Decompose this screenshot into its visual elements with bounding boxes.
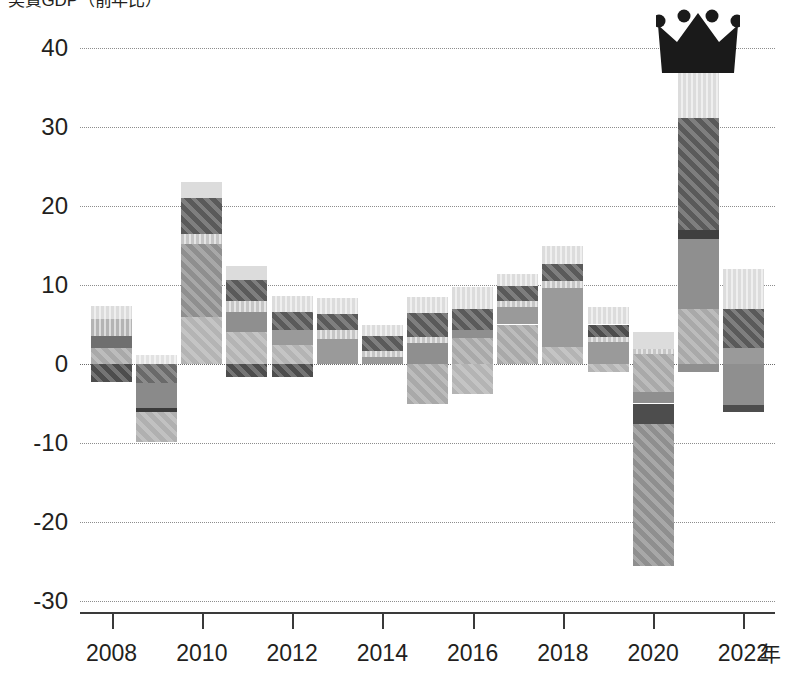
bar-segment [633, 332, 674, 349]
bar-segment [542, 288, 583, 346]
bar-segment [317, 330, 358, 339]
bar-segment [452, 338, 493, 364]
bar-segment [678, 239, 719, 309]
x-axis-line [80, 612, 775, 614]
bar-segment [633, 392, 674, 403]
bar-segment [136, 412, 177, 442]
bar-2020[interactable] [633, 48, 674, 601]
bar-segment [723, 405, 764, 412]
y-tick-label: 40 [41, 36, 68, 60]
bar-segment [542, 347, 583, 364]
x-tick [473, 612, 475, 629]
bar-segment [181, 182, 222, 199]
bar-segment [633, 354, 674, 393]
bar-segment [588, 342, 629, 364]
bar-2016[interactable] [452, 48, 493, 601]
bar-segment [633, 404, 674, 425]
bar-2012[interactable] [272, 48, 313, 601]
bar-segment [91, 336, 132, 348]
bar-segment [633, 424, 674, 566]
bar-2011[interactable] [226, 48, 267, 601]
x-tick [292, 612, 294, 629]
x-tick [202, 612, 204, 629]
bar-segment [588, 364, 629, 372]
bar-segment [407, 343, 448, 364]
bar-segment [407, 297, 448, 313]
bar-2019[interactable] [588, 48, 629, 601]
bar-2021[interactable] [678, 48, 719, 601]
bar-2009[interactable] [136, 48, 177, 601]
x-tick [382, 612, 384, 629]
bar-segment [452, 364, 493, 394]
x-tick-label: 2008 [86, 640, 137, 666]
y-tick-label: 20 [41, 194, 68, 218]
bar-segment [723, 309, 764, 349]
bar-2017[interactable] [497, 48, 538, 601]
bar-2014[interactable] [362, 48, 403, 601]
bar-segment [317, 339, 358, 364]
gridline--30 [80, 601, 775, 602]
plot-area [80, 48, 775, 601]
x-axis-unit-label: 年 [760, 641, 781, 667]
bar-segment [497, 286, 538, 301]
bar-segment [91, 306, 132, 319]
bar-segment [181, 317, 222, 364]
bar-segment [452, 330, 493, 338]
x-tick-label: 2020 [628, 640, 679, 666]
x-tick-label: 2016 [447, 640, 498, 666]
bar-segment [542, 264, 583, 281]
bar-segment [723, 348, 764, 364]
bar-2008[interactable] [91, 48, 132, 601]
bar-segment [317, 314, 358, 330]
bar-segment [497, 307, 538, 324]
bar-segment [91, 364, 132, 382]
bar-segment [91, 319, 132, 336]
bar-segment [497, 325, 538, 365]
bar-segment [723, 364, 764, 405]
y-tick-label: 10 [41, 273, 68, 297]
x-tick [653, 612, 655, 629]
bar-segment [678, 118, 719, 229]
bar-segment [181, 198, 222, 234]
y-tick-label: 30 [41, 115, 68, 139]
gdp-stacked-bar-chart: 実質GDP（前年比） 403020100-10-20-30 2008201020… [0, 0, 808, 684]
bar-2010[interactable] [181, 48, 222, 601]
bar-segment [181, 244, 222, 317]
x-tick-label: 2012 [267, 640, 318, 666]
x-tick-label: 2014 [357, 640, 408, 666]
bar-segment [226, 301, 267, 312]
bar-segment [588, 325, 629, 338]
bar-segment [272, 330, 313, 345]
bar-2015[interactable] [407, 48, 448, 601]
bar-segment [136, 355, 177, 364]
bar-segment [362, 336, 403, 351]
bar-segment [407, 313, 448, 337]
y-tick-label: 0 [55, 352, 68, 376]
bar-segment [497, 274, 538, 286]
bar-2018[interactable] [542, 48, 583, 601]
bar-segment [181, 234, 222, 244]
y-tick-label: -10 [33, 431, 68, 455]
bar-segment [136, 383, 177, 408]
bar-segment [272, 364, 313, 377]
bar-segment [362, 325, 403, 336]
bar-2013[interactable] [317, 48, 358, 601]
bar-segment [226, 280, 267, 301]
x-tick [112, 612, 114, 629]
bar-segment [272, 312, 313, 330]
bar-segment [678, 364, 719, 372]
bar-segment [362, 357, 403, 364]
bar-segment [723, 269, 764, 309]
bar-segment [542, 246, 583, 264]
bar-segment [678, 69, 719, 118]
bar-2022[interactable] [723, 48, 764, 601]
bar-segment [407, 364, 448, 404]
bar-segment [588, 307, 629, 324]
bar-segment [452, 287, 493, 308]
bar-segment [226, 312, 267, 333]
bar-segment [226, 266, 267, 280]
bar-segment [317, 298, 358, 315]
bar-segment [678, 230, 719, 239]
bar-segment [272, 345, 313, 364]
bar-segment [136, 364, 177, 383]
